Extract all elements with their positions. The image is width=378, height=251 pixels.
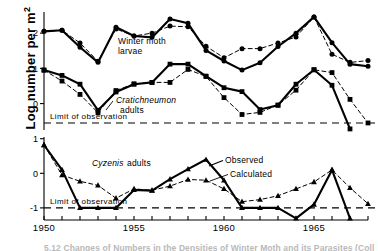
legend-observed-label: Observed [225,155,264,165]
data-point [240,112,245,117]
data-point [150,31,155,36]
data-point [60,79,65,84]
data-point [294,88,299,93]
legend-observed-leader [209,161,223,167]
data-point [114,88,119,93]
x-tick-label: 1955 [123,222,145,233]
data-point [330,52,335,57]
data-point [294,82,299,87]
data-point [222,85,227,90]
legend-calculated-label: Calculated [230,169,272,179]
data-point [257,196,263,201]
data-point [78,82,83,87]
data-point [42,29,47,34]
data-point [96,110,101,115]
figure-caption: 5.12 Changes of Numbers in the Densities… [44,243,378,251]
series-line [44,145,350,218]
data-point [168,24,173,29]
data-point [204,44,209,49]
data-point [330,40,335,45]
data-point [168,17,173,22]
data-point [222,55,227,60]
data-point [167,183,173,188]
data-point [330,83,335,88]
data-point [312,67,317,72]
data-point [203,177,209,182]
data-point [78,40,83,45]
data-point [131,186,137,191]
data-point [258,110,263,115]
y-tick-label: 0 [33,169,38,179]
data-point [258,46,263,51]
figure-panel: Log number per m2 012-101195019551960196… [0,0,378,251]
data-point [329,167,335,172]
data-point [240,89,245,94]
data-point [42,68,47,73]
data-point [60,73,65,78]
x-tick-label: 1950 [33,222,55,233]
data-point [312,14,317,19]
y-tick-label: 0 [33,99,38,109]
data-point [132,81,137,86]
data-point [366,121,371,126]
data-point [41,142,47,147]
data-point [348,127,353,132]
annotation-cyzenis-adults: adults [127,158,151,168]
data-point [60,28,65,33]
series-line [44,17,368,70]
data-point [185,176,191,181]
data-point [203,156,209,161]
data-point [347,215,353,220]
data-point [186,24,191,29]
annotation-winter-moth: Winter moth [118,36,166,46]
data-point [348,60,353,65]
annotation-cratichneumon-2: adults [120,105,144,115]
x-tick-label: 1965 [303,222,325,233]
data-point [78,92,83,97]
y-tick-label: 2 [33,28,38,38]
annotation-cyzenis: Cyzenis [92,158,124,168]
limit-of-observation-label: Limit of observation [50,112,127,121]
data-point [276,103,281,108]
data-point [186,67,191,72]
data-point [366,64,371,69]
y-tick-label: 1 [33,134,38,144]
data-point [330,70,335,75]
data-point [168,62,173,67]
data-point [348,97,353,102]
data-point [240,46,245,51]
data-point [258,60,263,65]
data-point [276,40,281,45]
annotation-cratichneumon: Cratichneumon [116,95,176,105]
data-point [186,62,191,67]
y-tick-label: -1 [30,203,38,213]
data-point [311,179,317,184]
data-point [150,80,155,85]
chart-svg: 012-1011950195519601965Limit of observat… [0,0,378,251]
data-point [222,95,227,100]
x-tick-label: 1960 [213,222,235,233]
data-point [366,58,371,63]
data-point [240,68,245,73]
annotation-winter-moth-2: larvae [118,46,142,56]
data-point [294,35,299,40]
data-point [168,80,173,85]
data-point [96,59,101,64]
y-tick-label: 1 [33,64,38,74]
data-point [114,26,119,31]
data-point [204,74,209,79]
